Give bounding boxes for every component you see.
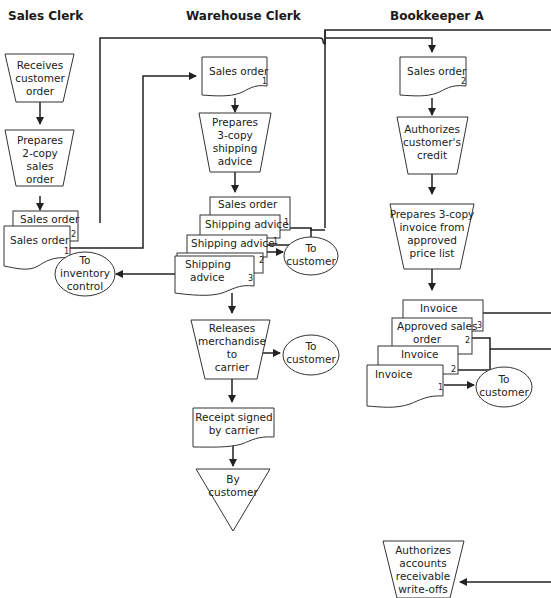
- svg-text:customer: customer: [479, 386, 529, 398]
- svg-text:2: 2: [71, 230, 76, 239]
- svg-text:customer's: customer's: [403, 136, 461, 148]
- svg-text:order: order: [26, 173, 55, 185]
- svg-text:2: 2: [451, 365, 456, 374]
- svg-text:inventory: inventory: [60, 267, 110, 279]
- svg-text:Shipping: Shipping: [185, 258, 231, 270]
- connector-sales-order-1-to-warehouse: [70, 76, 196, 248]
- bookkeeper-sales-order-doc: Sales order 2: [400, 57, 467, 96]
- svg-text:by carrier: by carrier: [209, 424, 260, 436]
- svg-text:Releases: Releases: [209, 322, 256, 334]
- svg-text:3: 3: [477, 321, 482, 330]
- svg-text:Sales order: Sales order: [20, 213, 80, 225]
- svg-text:carrier: carrier: [215, 361, 250, 373]
- svg-text:merchandise: merchandise: [198, 335, 266, 347]
- releases-merchandise-step: Releases merchandise to carrier: [191, 320, 270, 379]
- to-customer-terminal-2: To customer: [283, 335, 339, 375]
- svg-text:receivable: receivable: [396, 570, 450, 582]
- svg-text:Shipping advice: Shipping advice: [191, 237, 275, 249]
- svg-text:Invoice: Invoice: [420, 302, 458, 314]
- svg-text:accounts: accounts: [399, 557, 446, 569]
- svg-text:Prepares 3-copy: Prepares 3-copy: [390, 208, 475, 220]
- svg-text:order: order: [413, 333, 442, 345]
- svg-text:To: To: [304, 242, 316, 254]
- svg-text:1: 1: [284, 218, 289, 227]
- svg-text:1: 1: [262, 77, 267, 86]
- svg-text:price list: price list: [410, 247, 455, 259]
- svg-text:2: 2: [465, 336, 470, 345]
- svg-text:Sales order: Sales order: [10, 234, 70, 246]
- svg-text:order: order: [26, 85, 55, 97]
- svg-text:Receipt signed: Receipt signed: [195, 411, 272, 423]
- svg-text:advice: advice: [218, 155, 252, 167]
- file-by-customer: By customer: [196, 469, 270, 531]
- svg-text:By: By: [226, 473, 239, 485]
- column-header-warehouse-clerk: Warehouse Clerk: [186, 9, 302, 23]
- svg-text:Invoice: Invoice: [375, 368, 413, 380]
- to-inventory-control-terminal: To inventory control: [55, 252, 115, 296]
- warehouse-sales-order-doc: Sales order 1: [202, 57, 269, 96]
- stack-invoice-1: Invoice 1: [367, 365, 443, 407]
- svg-text:to: to: [227, 348, 238, 360]
- to-customer-terminal-3: To customer: [476, 367, 532, 407]
- authorizes-writeoffs-step: Authorizes accounts receivable write-off…: [383, 541, 464, 598]
- svg-text:invoice from: invoice from: [399, 221, 464, 233]
- prepares-invoice-step: Prepares 3-copy invoice from approved pr…: [390, 204, 475, 269]
- svg-text:To: To: [304, 340, 316, 352]
- column-header-bookkeeper-a: Bookkeeper A: [390, 9, 484, 23]
- flowchart: Sales Clerk Warehouse Clerk Bookkeeper A…: [0, 0, 551, 598]
- svg-text:sales: sales: [27, 160, 54, 172]
- svg-text:3: 3: [248, 274, 253, 283]
- svg-text:1: 1: [273, 237, 278, 246]
- svg-text:Authorizes: Authorizes: [395, 544, 451, 556]
- svg-text:Invoice: Invoice: [401, 348, 439, 360]
- svg-text:2: 2: [461, 77, 466, 86]
- svg-text:Sales order: Sales order: [407, 65, 467, 77]
- svg-text:credit: credit: [417, 149, 447, 161]
- svg-text:To: To: [78, 254, 90, 266]
- to-customer-terminal-1: To customer: [284, 237, 338, 275]
- svg-text:1: 1: [64, 247, 69, 256]
- svg-text:Approved sales: Approved sales: [397, 320, 477, 332]
- svg-text:Sales order: Sales order: [218, 198, 278, 210]
- svg-text:Receives: Receives: [17, 59, 64, 71]
- svg-text:Authorizes: Authorizes: [404, 123, 460, 135]
- svg-text:write-offs: write-offs: [398, 583, 448, 595]
- svg-text:2-copy: 2-copy: [22, 147, 58, 159]
- connector-to-bookkeeper-sales-order: [326, 38, 432, 52]
- svg-text:customer: customer: [286, 353, 336, 365]
- svg-text:2: 2: [259, 256, 264, 265]
- receives-customer-order-step: Receives customer order: [5, 54, 74, 102]
- svg-text:customer: customer: [15, 72, 65, 84]
- column-header-sales-clerk: Sales Clerk: [8, 9, 84, 23]
- svg-text:Sales order: Sales order: [209, 65, 269, 77]
- svg-text:Shipping advice: Shipping advice: [205, 218, 289, 230]
- svg-text:advice: advice: [190, 271, 224, 283]
- svg-text:shipping: shipping: [213, 142, 258, 154]
- svg-text:control: control: [67, 280, 103, 292]
- prepares-shipping-advice-step: Prepares 3-copy shipping advice: [199, 113, 271, 172]
- svg-text:approved: approved: [407, 234, 457, 246]
- stack-shipping-advice-3: Shipping advice 3: [175, 256, 254, 295]
- svg-text:Prepares: Prepares: [212, 116, 258, 128]
- svg-text:3-copy: 3-copy: [217, 129, 253, 141]
- svg-text:To: To: [497, 373, 509, 385]
- prepares-sales-order-step: Prepares 2-copy sales order: [5, 130, 74, 186]
- receipt-signed-by-carrier-doc: Receipt signed by carrier: [193, 408, 274, 447]
- svg-text:customer: customer: [286, 255, 336, 267]
- svg-text:customer: customer: [208, 486, 258, 498]
- svg-text:1: 1: [438, 383, 443, 392]
- svg-text:Prepares: Prepares: [17, 134, 63, 146]
- authorizes-customer-credit-step: Authorizes customer's credit: [397, 117, 468, 174]
